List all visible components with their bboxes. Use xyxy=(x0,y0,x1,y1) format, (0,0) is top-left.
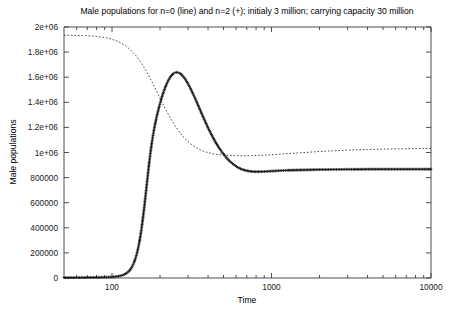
y-tick-label: 800000 xyxy=(30,173,58,183)
chart-title: Male populations for n=0 (line) and n=2 … xyxy=(80,6,413,16)
series-n0-line xyxy=(64,35,431,156)
x-tick-label: 100 xyxy=(105,282,119,292)
y-tick-label: 1e+06 xyxy=(35,148,59,158)
y-tick-label: 400000 xyxy=(30,223,58,233)
y-tick-label: 1.8e+06 xyxy=(28,47,59,57)
x-tick-label: 1000 xyxy=(262,282,281,292)
y-tick-label: 600000 xyxy=(30,198,58,208)
x-tick-label: 10000 xyxy=(419,282,442,292)
y-axis-label: Male populations xyxy=(8,120,18,185)
plus-marker-set xyxy=(63,71,433,279)
y-tick-label: 0 xyxy=(53,273,58,283)
y-tick-label: 2e+06 xyxy=(35,22,59,32)
x-axis-ticks: 100100010000 xyxy=(77,27,443,292)
y-tick-label: 1.2e+06 xyxy=(28,122,59,132)
y-axis-ticks: 02000004000006000008000001e+061.2e+061.4… xyxy=(28,22,431,283)
y-tick-label: 1.6e+06 xyxy=(28,72,59,82)
chart-container: Male populations for n=0 (line) and n=2 … xyxy=(0,0,453,314)
plot-border xyxy=(64,27,431,278)
y-tick-label: 1.4e+06 xyxy=(28,97,59,107)
x-axis-label: Time xyxy=(238,295,257,305)
y-tick-label: 200000 xyxy=(30,248,58,258)
population-chart: Male populations for n=0 (line) and n=2 … xyxy=(0,0,453,314)
series-n2-markers xyxy=(63,71,433,279)
